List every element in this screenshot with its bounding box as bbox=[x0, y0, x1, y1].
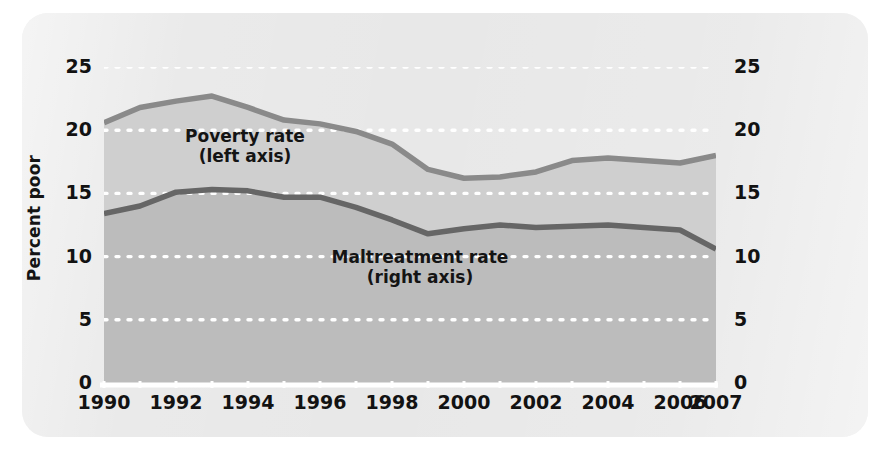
left-tick-0: 0 bbox=[52, 371, 92, 393]
x-tick-1996: 1996 bbox=[280, 391, 360, 413]
maltreatment-series-label: Maltreatment rate (right axis) bbox=[300, 247, 540, 287]
right-tick-0: 0 bbox=[734, 371, 774, 393]
left-tick-25: 25 bbox=[52, 55, 92, 77]
x-tick-2000: 2000 bbox=[424, 391, 504, 413]
left-tick-15: 15 bbox=[52, 181, 92, 203]
right-tick-25: 25 bbox=[734, 55, 774, 77]
right-tick-10: 10 bbox=[734, 245, 774, 267]
left-tick-10: 10 bbox=[52, 245, 92, 267]
right-tick-15: 15 bbox=[734, 181, 774, 203]
left-tick-5: 5 bbox=[52, 308, 92, 330]
x-tick-1990: 1990 bbox=[64, 391, 144, 413]
plot-area bbox=[104, 67, 716, 383]
x-tick-1998: 1998 bbox=[352, 391, 432, 413]
x-tick-1992: 1992 bbox=[136, 391, 216, 413]
x-tick-2007: 2007 bbox=[676, 391, 756, 413]
poverty-series-label: Poverty rate (left axis) bbox=[150, 126, 340, 166]
x-tick-2004: 2004 bbox=[568, 391, 648, 413]
right-tick-5: 5 bbox=[734, 308, 774, 330]
left-tick-20: 20 bbox=[52, 118, 92, 140]
x-tick-1994: 1994 bbox=[208, 391, 288, 413]
right-tick-20: 20 bbox=[734, 118, 774, 140]
left-axis-title: Percent poor bbox=[24, 118, 44, 318]
x-tick-2002: 2002 bbox=[496, 391, 576, 413]
